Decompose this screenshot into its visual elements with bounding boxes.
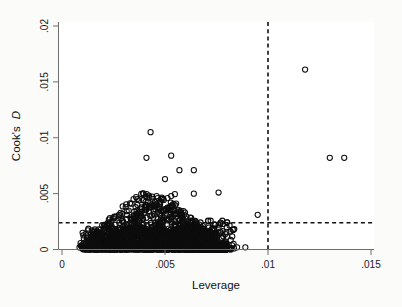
x-tick-label: 0	[59, 259, 65, 270]
y-axis-title: Cook's D	[10, 111, 22, 161]
svg-text:Cook's D: Cook's D	[10, 111, 22, 161]
y-axis-title-plain: Cook's	[10, 126, 22, 161]
y-tick-label: .02	[39, 19, 50, 33]
figure-container: 0.005.01.015.02 0.005.01.015 Leverage Co…	[0, 0, 402, 307]
y-tick-label: .005	[39, 183, 50, 203]
y-tick-label: 0	[39, 246, 50, 252]
x-tick-label: .005	[155, 259, 175, 270]
plot-area-background	[58, 22, 374, 249]
y-tick-label: .01	[39, 130, 50, 144]
cooks-d-vs-leverage-scatter-plot: 0.005.01.015.02 0.005.01.015 Leverage Co…	[0, 0, 402, 307]
x-tick-label: .01	[261, 259, 275, 270]
y-axis-title-italic: D	[10, 111, 22, 119]
x-axis-title: Leverage	[192, 279, 240, 291]
x-tick-label: .015	[361, 259, 381, 270]
y-tick-label: .015	[39, 72, 50, 92]
